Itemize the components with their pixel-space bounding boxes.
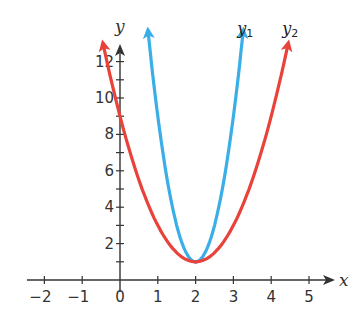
curve-label-y2: y2 (281, 19, 298, 40)
curve-y1-left (148, 31, 196, 262)
x-tick-label: −1 (67, 288, 89, 306)
y-tick-label: 10 (95, 89, 114, 107)
y-axis: 24681012 (95, 46, 124, 292)
y-tick-label: 8 (104, 125, 114, 143)
y-tick-label: 4 (104, 198, 114, 216)
x-tick-label: 4 (266, 288, 276, 306)
curve-label-y1: y1 (236, 19, 253, 40)
y-tick-label: 2 (104, 235, 114, 253)
x-axis-label: x (339, 270, 349, 290)
x-tick-label: 2 (191, 288, 201, 306)
y-tick-label: 6 (104, 162, 114, 180)
curve-y2-right (196, 43, 289, 261)
y-axis-label: y (114, 16, 125, 36)
x-axis: −2−1012345 (27, 276, 333, 306)
curve-y1-right (196, 31, 244, 262)
x-tick-label: 1 (153, 288, 163, 306)
x-tick-label: 3 (229, 288, 239, 306)
parabola-chart: −2−1012345 24681012 y1y2 x y (0, 0, 362, 322)
curve-labels: y1y2 (236, 19, 298, 40)
x-tick-label: −2 (29, 288, 51, 306)
curves (103, 31, 288, 262)
x-tick-label: 5 (304, 288, 314, 306)
